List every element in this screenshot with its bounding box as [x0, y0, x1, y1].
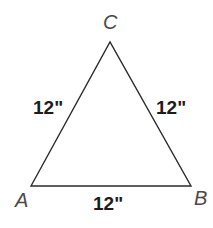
side-length-label-ab: 12" [93, 194, 123, 213]
side-length-label-bc: 12" [156, 98, 186, 117]
vertex-label-a: A [15, 190, 28, 210]
vertex-label-c: C [103, 12, 117, 32]
vertex-label-b: B [194, 188, 207, 208]
side-length-label-ac: 12" [33, 98, 63, 117]
triangle-figure: C A B 12" 12" 12" [0, 0, 213, 228]
